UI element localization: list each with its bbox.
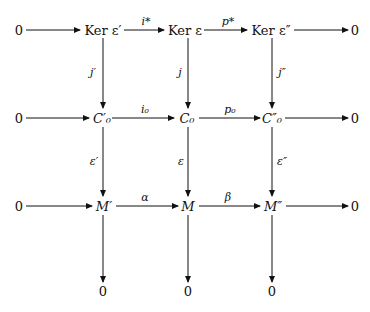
node-ker-eps-dprime: Ker ε″ xyxy=(252,24,291,37)
node-zero: 0 xyxy=(268,285,276,298)
node-zero: 0 xyxy=(351,24,359,37)
node-m-prime: M′ xyxy=(96,200,112,213)
label-eps-prime: ε′ xyxy=(90,156,98,167)
label-beta: β xyxy=(225,192,231,203)
node-zero: 0 xyxy=(99,285,107,298)
label-i-star: i* xyxy=(141,16,150,27)
arrows-layer xyxy=(0,0,370,312)
node-ker-eps: Ker ε xyxy=(168,24,202,37)
node-ker-eps-prime: Ker ε′ xyxy=(84,24,121,37)
label-j-dprime: j″ xyxy=(278,67,286,78)
node-m: M xyxy=(181,200,194,213)
label-p-star: p* xyxy=(222,16,235,27)
label-j-prime: j′ xyxy=(90,67,96,78)
node-c0-dprime: C″₀ xyxy=(262,112,282,125)
label-eps-dprime: ε″ xyxy=(277,156,287,167)
label-j: j xyxy=(178,67,181,78)
node-zero: 0 xyxy=(184,285,192,298)
label-eps: ε xyxy=(178,156,184,167)
label-i0: i₀ xyxy=(141,104,149,115)
label-p0: p₀ xyxy=(224,104,235,115)
node-zero: 0 xyxy=(15,112,23,125)
node-zero: 0 xyxy=(15,24,23,37)
node-zero: 0 xyxy=(351,200,359,213)
node-m-dprime: M″ xyxy=(264,200,282,213)
node-c0: C₀ xyxy=(179,112,194,125)
node-c0-prime: C′₀ xyxy=(93,112,111,125)
node-zero: 0 xyxy=(15,200,23,213)
node-zero: 0 xyxy=(351,112,359,125)
label-alpha: α xyxy=(141,192,148,203)
